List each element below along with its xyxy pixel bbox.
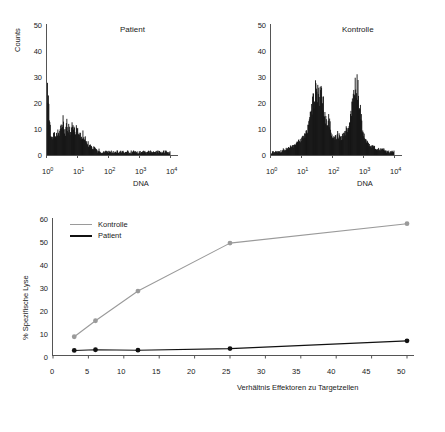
lysis-xtick-15: 15 xyxy=(152,368,160,376)
lysis-xtick-20: 20 xyxy=(187,368,195,376)
kontrolle-ytick-30: 30 xyxy=(248,74,266,82)
patient-y-axis-label: Counts xyxy=(14,28,22,52)
figure-panel-container: Counts Patient 50 40 30 20 10 0 100 101 … xyxy=(0,0,445,432)
lysis-ytick-50: 50 xyxy=(30,239,48,247)
kontrolle-xtick-1e2: 102 xyxy=(328,168,339,176)
lysis-ytick-20: 20 xyxy=(30,308,48,316)
kontrolle-ytick-50: 50 xyxy=(248,22,266,30)
patient-histogram-plot xyxy=(46,24,178,158)
patient-x-axis-label: DNA xyxy=(133,180,149,188)
kontrolle-xtick-1e0: 100 xyxy=(266,168,277,176)
lysis-ytick-60: 60 xyxy=(30,216,48,224)
kontrolle-x-axis-label: DNA xyxy=(357,180,373,188)
lysis-xtick-5: 5 xyxy=(85,368,89,376)
lysis-xtick-35: 35 xyxy=(292,368,300,376)
patient-histogram-svg xyxy=(46,24,178,158)
patient-ytick-30: 30 xyxy=(24,74,42,82)
kontrolle-xtick-1e4: 104 xyxy=(390,168,401,176)
kontrolle-histogram-svg xyxy=(270,24,402,158)
patient-ytick-0: 0 xyxy=(24,152,42,160)
lysis-line-plot xyxy=(52,218,418,362)
patient-ytick-10: 10 xyxy=(24,126,42,134)
lysis-x-axis-label: Verhältnis Effektoren zu Targetzellen xyxy=(237,384,358,392)
lysis-xtick-25: 25 xyxy=(222,368,230,376)
patient-xtick-1e4: 104 xyxy=(166,168,177,176)
patient-xtick-1e0: 100 xyxy=(42,168,53,176)
lysis-xtick-10: 10 xyxy=(117,368,125,376)
lysis-y-axis-label: % Spezifische Lyse xyxy=(22,275,30,340)
lysis-ytick-10: 10 xyxy=(30,331,48,339)
patient-xtick-1e1: 101 xyxy=(73,168,84,176)
lysis-xtick-50: 50 xyxy=(397,368,405,376)
kontrolle-xtick-1e1: 101 xyxy=(297,168,308,176)
lysis-ytick-30: 30 xyxy=(30,285,48,293)
kontrolle-ytick-20: 20 xyxy=(248,100,266,108)
patient-ytick-20: 20 xyxy=(24,100,42,108)
patient-ytick-50: 50 xyxy=(24,22,42,30)
patient-ytick-40: 40 xyxy=(24,48,42,56)
lysis-xtick-40: 40 xyxy=(327,368,335,376)
lysis-ytick-0: 0 xyxy=(30,354,48,362)
lysis-ytick-40: 40 xyxy=(30,262,48,270)
lysis-line-svg xyxy=(52,218,418,362)
patient-xtick-1e2: 102 xyxy=(104,168,115,176)
kontrolle-ytick-0: 0 xyxy=(248,152,266,160)
lysis-xtick-45: 45 xyxy=(362,368,370,376)
kontrolle-xtick-1e3: 103 xyxy=(359,168,370,176)
kontrolle-histogram-plot xyxy=(270,24,402,158)
kontrolle-ytick-10: 10 xyxy=(248,126,266,134)
kontrolle-ytick-40: 40 xyxy=(248,48,266,56)
lysis-xtick-30: 30 xyxy=(257,368,265,376)
patient-xtick-1e3: 103 xyxy=(135,168,146,176)
lysis-xtick-0: 0 xyxy=(50,368,54,376)
